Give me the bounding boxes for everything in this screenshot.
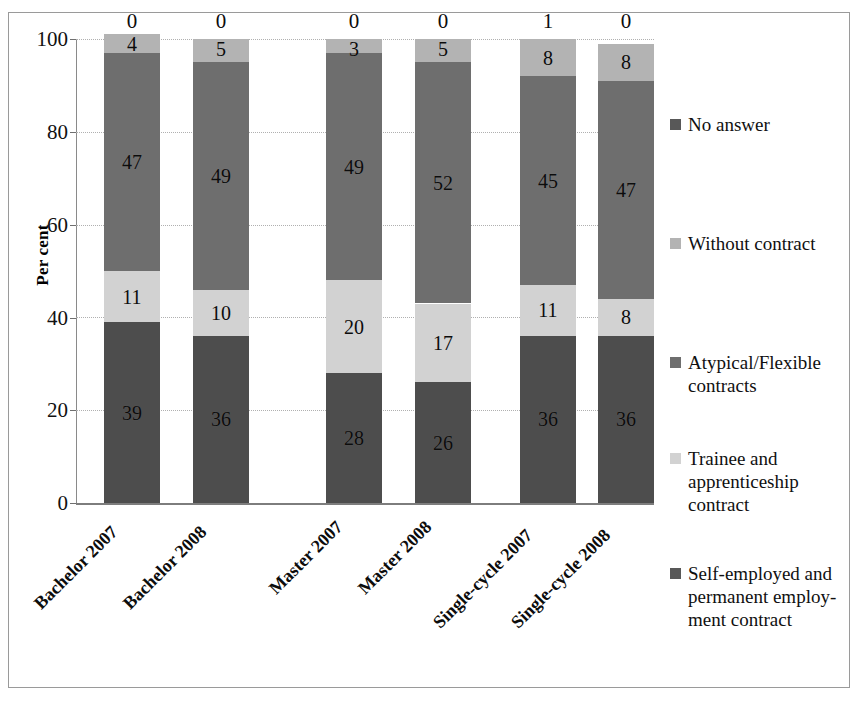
legend-label-line-3: contract (688, 493, 799, 516)
legend-swatch-permanent-icon (670, 568, 681, 579)
segment-atypical-single-cycle-2007[interactable]: 45 (520, 76, 576, 285)
segment-value: 8 (543, 48, 553, 68)
legend-label-line-1: Trainee and (688, 447, 799, 470)
segment-value: 36 (616, 409, 636, 429)
legend-label: Without contract (688, 232, 815, 255)
segment-without-contract-master-2008[interactable]: 5 (415, 39, 471, 62)
segment-value: 8 (621, 52, 631, 72)
y-tick-0: 0 (14, 493, 68, 514)
segment-trainee-bachelor-2008[interactable]: 10 (193, 290, 249, 336)
chart-figure: 100 80 60 40 20 0 Per cent 39 11 (8, 12, 850, 688)
segment-value: 5 (216, 39, 226, 59)
bar-bachelor-2008[interactable]: 36 10 49 5 0 (193, 39, 249, 503)
segment-value: 47 (122, 152, 142, 172)
x-tick-label-bachelor-2008: Bachelor 2008 (119, 522, 211, 614)
bar-master-2008[interactable]: 26 17 52 5 0 (415, 39, 471, 503)
segment-atypical-single-cycle-2008[interactable]: 47 (598, 81, 654, 299)
segment-trainee-master-2008[interactable]: 17 (415, 304, 471, 383)
segment-value: 36 (538, 409, 558, 429)
legend-item-atypical-flexible-contracts[interactable]: Atypical/Flexible contracts (670, 351, 845, 397)
segment-without-contract-bachelor-2008[interactable]: 5 (193, 39, 249, 62)
segment-value: 5 (438, 39, 448, 59)
bar-master-2007[interactable]: 28 20 49 3 0 (326, 39, 382, 503)
segment-value: 8 (621, 307, 631, 327)
x-axis-line (76, 503, 654, 505)
segment-value: 20 (344, 317, 364, 337)
segment-permanent-master-2007[interactable]: 28 (326, 373, 382, 503)
segment-without-contract-single-cycle-2008[interactable]: 8 (598, 44, 654, 81)
segment-value: 49 (344, 157, 364, 177)
segment-without-contract-master-2007[interactable]: 3 (326, 39, 382, 53)
segment-value: 4 (127, 34, 137, 54)
plot-area: 39 11 47 4 0 36 10 49 5 (76, 39, 654, 503)
bar-bachelor-2007[interactable]: 39 11 47 4 0 (104, 39, 160, 503)
segment-value: 52 (433, 173, 453, 193)
segment-value: 11 (122, 287, 141, 307)
bar-top-label-bachelor-2007: 0 (104, 11, 160, 32)
segment-atypical-bachelor-2007[interactable]: 47 (104, 53, 160, 271)
y-tick-20: 20 (14, 400, 68, 421)
segment-value: 17 (433, 333, 453, 353)
bar-top-label-master-2008: 0 (415, 11, 471, 32)
legend-label-line-2: permanent employ- (688, 585, 836, 608)
segment-value: 11 (538, 300, 557, 320)
segment-without-contract-bachelor-2007[interactable]: 4 (104, 34, 160, 53)
y-axis-title: Per cent (33, 195, 53, 315)
x-tick-label-master-2008: Master 2008 (354, 517, 436, 599)
segment-trainee-single-cycle-2007[interactable]: 11 (520, 285, 576, 336)
segment-permanent-bachelor-2008[interactable]: 36 (193, 336, 249, 503)
y-tick-100: 100 (14, 29, 68, 50)
segment-trainee-single-cycle-2008[interactable]: 8 (598, 299, 654, 336)
legend-item-trainee-apprenticeship-contract[interactable]: Trainee and apprenticeship contract (670, 447, 845, 516)
y-tick-80: 80 (14, 122, 68, 143)
legend-item-without-contract[interactable]: Without contract (670, 232, 845, 255)
legend-item-no-answer[interactable]: No answer (670, 113, 845, 136)
segment-value: 3 (349, 39, 359, 59)
segment-value: 26 (433, 433, 453, 453)
segment-trainee-bachelor-2007[interactable]: 11 (104, 271, 160, 322)
segment-atypical-bachelor-2008[interactable]: 49 (193, 62, 249, 289)
segment-atypical-master-2008[interactable]: 52 (415, 62, 471, 303)
legend-label-line-1: Atypical/Flexible (688, 351, 821, 374)
x-tick-label-master-2007: Master 2007 (265, 517, 347, 599)
bar-single-cycle-2008[interactable]: 36 8 47 8 0 (598, 39, 654, 503)
segment-permanent-master-2008[interactable]: 26 (415, 382, 471, 503)
legend-label-line-2: contracts (688, 374, 821, 397)
segment-value: 39 (122, 403, 142, 423)
segment-value: 47 (616, 180, 636, 200)
bar-single-cycle-2007[interactable]: 36 11 45 8 1 (520, 39, 576, 503)
segment-atypical-master-2007[interactable]: 49 (326, 53, 382, 280)
segment-trainee-master-2007[interactable]: 20 (326, 280, 382, 373)
legend-item-self-employed-permanent-employment-contract[interactable]: Self-employed and permanent employ- ment… (670, 562, 845, 631)
segment-value: 28 (344, 428, 364, 448)
legend-label-line-3: ment contract (688, 608, 836, 631)
legend-label-line-1: Self-employed and (688, 562, 836, 585)
bar-top-label-single-cycle-2007: 1 (520, 11, 576, 32)
bar-top-label-bachelor-2008: 0 (193, 11, 249, 32)
legend-swatch-trainee-icon (670, 453, 681, 464)
segment-without-contract-single-cycle-2007[interactable]: 8 (520, 39, 576, 76)
bar-top-label-master-2007: 0 (326, 11, 382, 32)
legend-label: No answer (688, 113, 770, 136)
segment-permanent-single-cycle-2008[interactable]: 36 (598, 336, 654, 503)
legend-swatch-no-answer-icon (670, 119, 681, 130)
bar-top-label-single-cycle-2008: 0 (598, 11, 654, 32)
segment-value: 36 (211, 409, 231, 429)
segment-value: 10 (211, 303, 231, 323)
segment-value: 45 (538, 171, 558, 191)
segment-value: 49 (211, 166, 231, 186)
segment-permanent-single-cycle-2007[interactable]: 36 (520, 336, 576, 503)
legend-swatch-without-contract-icon (670, 238, 681, 249)
segment-permanent-bachelor-2007[interactable]: 39 (104, 322, 160, 503)
legend-label-line-2: apprenticeship (688, 470, 799, 493)
legend-swatch-atypical-icon (670, 357, 681, 368)
